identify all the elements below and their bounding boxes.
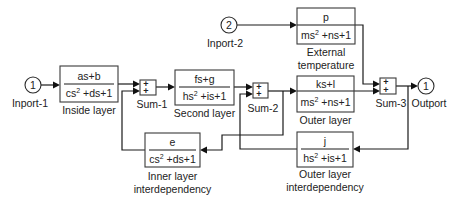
second-layer-label: Second layer — [174, 107, 236, 119]
inner-interdependency-numerator: e — [170, 136, 176, 148]
outer-layer-block[interactable]: ks+l ms2 +ns+1 Outer layer — [297, 76, 354, 126]
external-temperature-denominator: ms2 +ns+1 — [301, 29, 351, 41]
second-layer-denominator: hs2 +is+1 — [183, 90, 227, 102]
inside-layer-numerator: as+b — [77, 70, 100, 82]
outer-interdependency-label-line-1: Outer layer — [299, 168, 351, 180]
external-temperature-label-line-2: temperature — [298, 59, 355, 71]
inport-1-label: Inport-1 — [12, 97, 48, 109]
sum-1-block[interactable]: + + Sum-1 — [137, 79, 168, 110]
inner-layer-interdependency-block[interactable]: e cs2 +ds+1 Inner layer interdependency — [134, 133, 212, 195]
sum-1-label: Sum-1 — [137, 98, 168, 110]
second-layer-block[interactable]: fs+g hs2 +is+1 Second layer — [174, 70, 236, 119]
inner-interdependency-label-line-1: Inner layer — [148, 170, 198, 182]
outport[interactable]: 1 Outport — [411, 78, 446, 109]
sum-3-block[interactable]: + + Sum-3 — [376, 77, 407, 109]
inport-2-number: 2 — [226, 19, 232, 31]
inport-2[interactable]: 2 Inport-2 — [207, 17, 243, 49]
outer-interdependency-label-line-2: interdependency — [286, 181, 364, 193]
sum-3-label: Sum-3 — [376, 97, 407, 109]
sum-3-sign-2: + — [383, 85, 388, 95]
sum-1-sign-2: + — [143, 86, 148, 96]
block-diagram-canvas: 1 Inport-1 2 Inport-2 1 Outport as+b cs2… — [0, 0, 464, 204]
sum-2-sign-2: + — [256, 89, 261, 99]
outer-interdependency-denominator: hs2 +is+1 — [303, 152, 347, 164]
external-temperature-label-line-1: External — [307, 46, 346, 58]
outer-layer-numerator: ks+l — [316, 78, 335, 90]
inner-interdependency-denominator: cs2 +ds+1 — [149, 153, 196, 165]
outer-layer-label: Outer layer — [300, 114, 352, 126]
inside-layer-block[interactable]: as+b cs2 +ds+1 Inside layer — [60, 66, 118, 116]
sum-2-label: Sum-2 — [248, 102, 279, 114]
inside-layer-denominator: cs2 +ds+1 — [66, 87, 113, 99]
second-layer-numerator: fs+g — [194, 73, 214, 85]
inside-layer-label: Inside layer — [62, 104, 116, 116]
inport-1[interactable]: 1 Inport-1 — [12, 77, 48, 109]
inport-2-label: Inport-2 — [207, 37, 243, 49]
outer-layer-interdependency-block[interactable]: j hs2 +is+1 Outer layer interdependency — [286, 132, 364, 193]
outer-interdependency-numerator: j — [323, 135, 326, 147]
external-temperature-numerator: p — [323, 11, 329, 23]
inport-1-number: 1 — [30, 79, 36, 91]
outer-layer-denominator: ms2 +ns+1 — [300, 96, 350, 108]
external-temperature-block[interactable]: p ms2 +ns+1 External temperature — [297, 8, 355, 71]
outport-label: Outport — [411, 97, 446, 109]
inner-interdependency-label-line-2: interdependency — [134, 183, 212, 195]
outport-number: 1 — [423, 80, 429, 92]
